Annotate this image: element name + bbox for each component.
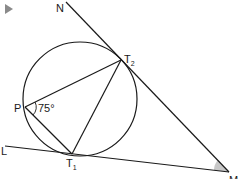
chord-t1-t2 xyxy=(72,60,121,154)
chord-p-t2 xyxy=(25,60,121,107)
label-m: M xyxy=(229,174,238,179)
label-t1: T1 xyxy=(66,157,77,171)
angle-p-arc xyxy=(33,102,36,115)
geometry-diagram: N T2 P 75° L T1 M xyxy=(0,0,242,179)
label-t2: T2 xyxy=(124,53,135,67)
label-l: L xyxy=(1,145,7,157)
tangent-line-lm xyxy=(5,146,229,172)
play-icon[interactable] xyxy=(5,4,13,14)
tangent-line-nm xyxy=(66,2,229,172)
label-p: P xyxy=(14,102,21,114)
label-angle-p: 75° xyxy=(38,102,55,114)
label-n: N xyxy=(56,2,64,14)
